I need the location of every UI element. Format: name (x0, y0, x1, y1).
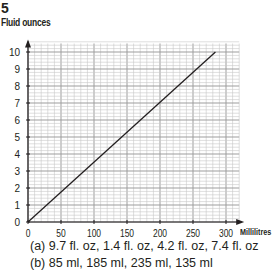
svg-text:4: 4 (14, 149, 20, 160)
svg-text:1: 1 (14, 200, 20, 211)
answers: (a) 9.7 fl. oz, 1.4 fl. oz, 4.2 fl. oz, … (30, 238, 259, 272)
axes (25, 40, 244, 226)
svg-text:0: 0 (14, 217, 20, 228)
svg-text:5: 5 (14, 132, 20, 143)
svg-text:6: 6 (14, 115, 20, 126)
svg-text:3: 3 (14, 166, 20, 177)
answer-a: (a) 9.7 fl. oz, 1.4 fl. oz, 4.2 fl. oz, … (30, 238, 259, 255)
svg-text:9: 9 (14, 64, 20, 75)
conversion-graph: 050100150200250300012345678910 (0, 0, 276, 273)
answer-b: (b) 85 ml, 185 ml, 235 ml, 135 ml (30, 255, 259, 272)
svg-text:8: 8 (14, 81, 20, 92)
svg-text:7: 7 (14, 98, 20, 109)
svg-text:2: 2 (14, 183, 20, 194)
svg-text:10: 10 (9, 47, 21, 58)
grid (28, 42, 239, 222)
